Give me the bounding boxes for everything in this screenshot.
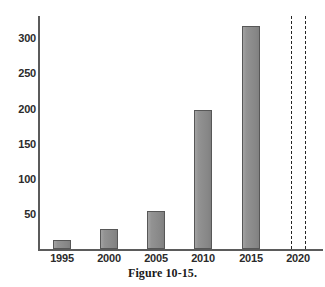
x-axis-tick-label: 2015 <box>239 252 263 264</box>
y-axis-tick-label: 300 <box>2 33 36 44</box>
y-axis-tick-labels: 50100150200250300 <box>0 0 36 258</box>
bar <box>53 240 71 249</box>
bar <box>242 26 260 249</box>
y-axis-tick-label: 150 <box>2 139 36 150</box>
dashed-line-left <box>291 16 292 249</box>
x-axis-tick-label: 2010 <box>191 252 215 264</box>
bar <box>100 229 118 249</box>
bar-chart-plot-area: 50100150200250300 1995200020052010201520… <box>0 0 325 258</box>
figure-caption: Figure 10-15. <box>0 266 325 281</box>
x-axis-tick-label: 1995 <box>50 252 74 264</box>
x-axis-tick-label: 2020 <box>286 252 310 264</box>
y-axis-tick-label: 250 <box>2 68 36 79</box>
figure-container: 50100150200250300 1995200020052010201520… <box>0 0 325 287</box>
y-axis-tick-label: 50 <box>2 209 36 220</box>
y-axis-tick-label: 100 <box>2 174 36 185</box>
x-axis-line <box>38 249 323 251</box>
bar <box>147 211 165 249</box>
y-axis-tick-label: 200 <box>2 104 36 115</box>
y-axis-line <box>38 16 40 250</box>
dashed-line-right <box>305 16 306 249</box>
x-axis-tick-label: 2000 <box>97 252 121 264</box>
x-axis-tick-label: 2005 <box>144 252 168 264</box>
bar <box>194 110 212 249</box>
